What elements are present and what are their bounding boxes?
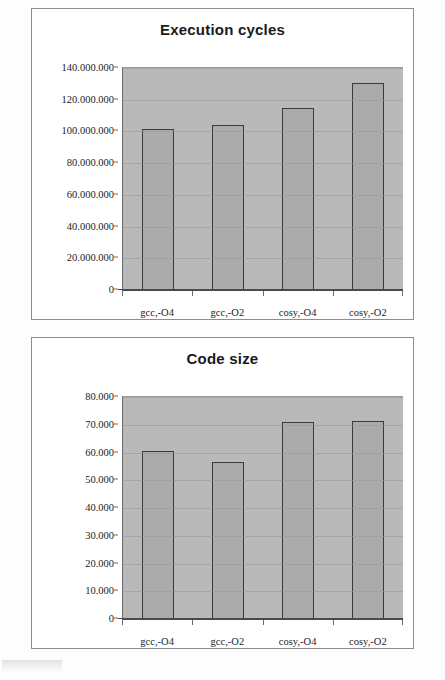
chart-title: Code size <box>32 350 413 367</box>
x-axis-category: gcc,-O2 <box>192 620 262 649</box>
y-tick-mark <box>114 130 118 131</box>
x-tick-label: cosy,-O4 <box>279 307 317 318</box>
x-axis-labels: gcc,-O4gcc,-O2cosy,-O4cosy,-O2 <box>122 291 403 320</box>
bar-gcc-o2 <box>212 125 245 290</box>
y-tick-label: 80.000.000 <box>67 157 114 168</box>
plot-wrapper: 020.000.00040.000.00060.000.00080.000.00… <box>32 53 413 319</box>
y-tick-label: 60.000 <box>85 446 114 457</box>
y-tick-label: 10.000 <box>85 585 114 596</box>
bar-gcc-o2 <box>212 462 245 619</box>
chart-title: Execution cycles <box>32 21 413 38</box>
x-tick-label: gcc,-O2 <box>211 636 245 647</box>
y-tick-label: 20.000.000 <box>67 252 114 263</box>
gridline <box>123 131 403 132</box>
x-axis-line <box>118 289 403 290</box>
y-tick-mark <box>114 423 118 424</box>
gridline <box>123 536 403 537</box>
bar-series <box>123 68 403 290</box>
gridline <box>123 397 403 398</box>
x-tick-label: cosy,-O4 <box>279 636 317 647</box>
x-tick-mark <box>333 620 334 625</box>
gridline <box>123 591 403 592</box>
bar-cosy-o4 <box>282 108 315 290</box>
y-tick-mark <box>114 479 118 480</box>
x-tick-label: gcc,-O4 <box>140 636 174 647</box>
y-tick-mark <box>114 534 118 535</box>
x-tick-mark <box>333 291 334 296</box>
plot-area <box>122 396 403 620</box>
y-tick-mark <box>114 193 118 194</box>
gridline <box>123 508 403 509</box>
bar-cosy-o2 <box>352 421 385 619</box>
x-tick-mark <box>402 620 403 625</box>
bar-slot <box>193 68 263 290</box>
x-axis-category: gcc,-O4 <box>122 291 192 320</box>
chart-card-execution-cycles: Execution cycles 020.000.00040.000.00060… <box>31 8 414 320</box>
gridline <box>123 163 403 164</box>
scan-artifact <box>2 660 62 672</box>
chart-card-code-size: Code size 010.00020.00030.00040.00050.00… <box>31 337 414 649</box>
x-axis-category: cosy,-O4 <box>263 620 333 649</box>
y-tick-mark <box>114 98 118 99</box>
x-tick-label: gcc,-O2 <box>211 307 245 318</box>
y-tick-mark <box>114 225 118 226</box>
gridline <box>123 258 403 259</box>
x-tick-label: cosy,-O2 <box>349 636 387 647</box>
gridline <box>123 68 403 69</box>
gridline <box>123 100 403 101</box>
x-axis-category: cosy,-O2 <box>333 291 403 320</box>
gridline <box>123 425 403 426</box>
bar-gcc-o4 <box>142 129 175 290</box>
gridline <box>123 480 403 481</box>
y-tick-label: 40.000.000 <box>67 220 114 231</box>
x-tick-mark <box>122 291 123 296</box>
y-axis: 020.000.00040.000.00060.000.00080.000.00… <box>40 67 118 289</box>
y-tick-mark <box>114 67 118 68</box>
y-tick-label: 70.000 <box>85 418 114 429</box>
y-tick-mark <box>114 451 118 452</box>
gridline <box>123 195 403 196</box>
y-tick-label: 20.000 <box>85 557 114 568</box>
x-tick-mark <box>263 620 264 625</box>
y-tick-mark <box>114 590 118 591</box>
plot-area <box>122 67 403 291</box>
y-tick-mark <box>114 162 118 163</box>
x-axis-category: cosy,-O4 <box>263 291 333 320</box>
bar-slot <box>333 68 403 290</box>
x-tick-label: cosy,-O2 <box>349 307 387 318</box>
x-axis-category: gcc,-O2 <box>192 291 262 320</box>
x-tick-mark <box>263 291 264 296</box>
gridline <box>123 227 403 228</box>
bar-slot <box>263 68 333 290</box>
y-tick-label: 140.000.000 <box>62 62 115 73</box>
y-tick-mark <box>114 257 118 258</box>
x-axis-labels: gcc,-O4gcc,-O2cosy,-O4cosy,-O2 <box>122 620 403 649</box>
x-axis-category: cosy,-O2 <box>333 620 403 649</box>
y-tick-label: 50.000 <box>85 474 114 485</box>
y-tick-label: 40.000 <box>85 502 114 513</box>
y-tick-label: 80.000 <box>85 391 114 402</box>
x-tick-mark <box>402 291 403 296</box>
x-tick-mark <box>192 291 193 296</box>
y-tick-mark <box>114 562 118 563</box>
plot-wrapper: 010.00020.00030.00040.00050.00060.00070.… <box>32 382 413 648</box>
y-tick-mark <box>114 396 118 397</box>
gridline <box>123 564 403 565</box>
x-tick-label: gcc,-O4 <box>140 307 174 318</box>
y-tick-label: 30.000 <box>85 529 114 540</box>
y-tick-label: 60.000.000 <box>67 188 114 199</box>
x-axis-category: gcc,-O4 <box>122 620 192 649</box>
y-tick-mark <box>114 507 118 508</box>
bar-slot <box>123 68 193 290</box>
x-tick-mark <box>122 620 123 625</box>
page-root: Execution cycles 020.000.00040.000.00060… <box>0 0 445 680</box>
y-tick-label: 120.000.000 <box>62 93 115 104</box>
x-axis-line <box>118 618 403 619</box>
x-tick-mark <box>192 620 193 625</box>
y-tick-label: 100.000.000 <box>62 125 115 136</box>
gridline <box>123 453 403 454</box>
y-axis: 010.00020.00030.00040.00050.00060.00070.… <box>40 396 118 618</box>
